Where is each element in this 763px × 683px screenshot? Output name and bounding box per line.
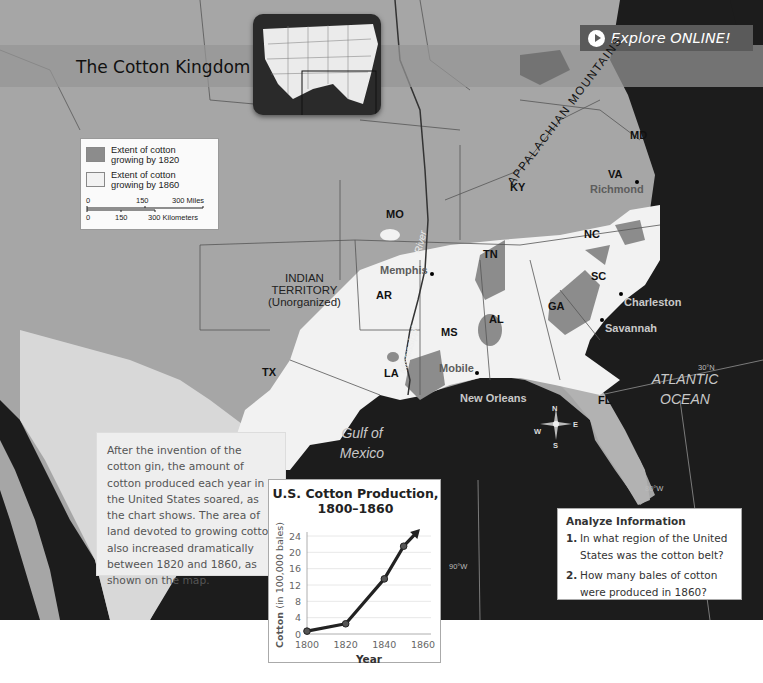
coord-90w: 90°W xyxy=(449,562,467,571)
legend-item-1860: Extent of cottongrowing by 1860 xyxy=(86,170,179,190)
svg-text:24: 24 xyxy=(289,531,301,542)
scale-miles-0: 0 xyxy=(86,196,90,205)
scale-km-0: 0 xyxy=(86,213,90,222)
compass-s: S xyxy=(553,441,558,450)
city-savannah: Savannah xyxy=(605,322,657,334)
svg-text:Cotton (in 100,000 bales): Cotton (in 100,000 bales) xyxy=(274,522,285,648)
city-dot-charleston xyxy=(619,292,623,296)
svg-text:16: 16 xyxy=(289,563,301,574)
label-nc: NC xyxy=(584,228,600,240)
city-dot-mobile xyxy=(475,371,479,375)
map-legend: Extent of cottongrowing by 1820 Extent o… xyxy=(80,138,219,230)
city-charleston: Charleston xyxy=(624,296,681,308)
label-la: LA xyxy=(384,367,399,379)
label-gulf-of-mexico: Gulf of Mexico xyxy=(327,423,397,463)
label-tn: TN xyxy=(483,248,498,260)
label-ga: GA xyxy=(548,300,565,312)
svg-text:4: 4 xyxy=(295,612,301,623)
label-indian-territory: INDIAN TERRITORY (Unorganized) xyxy=(268,272,341,308)
atlantic-line1: ATLANTIC xyxy=(640,369,730,389)
gulf-line2: Mexico xyxy=(327,443,397,463)
scale-km-150: 150 xyxy=(115,213,128,222)
atlantic-line2: OCEAN xyxy=(640,389,730,409)
question-1-text: In what region of the United States was … xyxy=(580,530,733,564)
compass-e: E xyxy=(573,420,578,429)
question-1-number: 1. xyxy=(566,530,580,564)
analyze-heading: Analyze Information xyxy=(566,515,733,527)
legend-swatch-1860 xyxy=(86,172,105,187)
map-title: The Cotton Kingdom xyxy=(76,57,250,77)
explore-online-label: Explore ONLINE! xyxy=(611,30,731,46)
city-mobile: Mobile xyxy=(439,362,474,374)
analyze-question-2: 2. How many bales of cotton were produce… xyxy=(566,567,733,601)
compass-n: N xyxy=(552,404,557,413)
label-atlantic-ocean: ATLANTIC OCEAN xyxy=(640,369,730,409)
question-2-number: 2. xyxy=(566,567,580,601)
svg-text:1800: 1800 xyxy=(295,639,319,650)
scale-miles-150: 150 xyxy=(136,196,149,205)
label-va: VA xyxy=(608,168,622,180)
legend-label-1820-line1: Extent of cotton xyxy=(111,145,179,155)
cotton-production-chart: U.S. Cotton Production, 1800–1860 048121… xyxy=(268,479,441,663)
gulf-line1: Gulf of xyxy=(327,423,397,443)
label-tx: TX xyxy=(262,366,276,378)
scale-miles-300: 300 Miles xyxy=(172,196,204,205)
label-md: MD xyxy=(630,129,647,141)
city-richmond: Richmond xyxy=(590,183,644,195)
label-mo: MO xyxy=(386,208,404,220)
city-dot-memphis xyxy=(430,272,434,276)
svg-text:0: 0 xyxy=(295,629,301,640)
legend-item-1820: Extent of cottongrowing by 1820 xyxy=(86,145,179,165)
label-sc: SC xyxy=(591,270,606,282)
indian-territory-line1: INDIAN xyxy=(268,272,341,284)
coord-80w: 80°W xyxy=(645,484,663,493)
svg-text:1840: 1840 xyxy=(372,639,396,650)
svg-text:8: 8 xyxy=(295,596,301,607)
label-ar: AR xyxy=(376,289,392,301)
indian-territory-line2: TERRITORY xyxy=(268,284,341,296)
city-memphis: Memphis xyxy=(380,264,428,276)
label-fl: FL xyxy=(598,394,611,406)
svg-text:Year: Year xyxy=(355,653,383,664)
chart-plot: 048121620241800182018401860YearCotton (i… xyxy=(269,480,442,664)
city-new-orleans: New Orleans xyxy=(460,392,527,404)
svg-text:20: 20 xyxy=(289,547,301,558)
city-dot-richmond xyxy=(635,180,639,184)
analyze-question-1: 1. In what region of the United States w… xyxy=(566,530,733,564)
legend-label-1860-line2: growing by 1860 xyxy=(111,180,179,190)
scale-bar: 0 150 300 Miles 0 150 300 Kilometers xyxy=(86,196,212,222)
play-circle-icon xyxy=(588,30,605,47)
map-caption: After the invention of the cotton gin, t… xyxy=(97,433,285,575)
svg-text:12: 12 xyxy=(289,580,301,591)
legend-label-1860-line1: Extent of cotton xyxy=(111,170,179,180)
svg-text:1860: 1860 xyxy=(411,639,435,650)
analyze-information-box: Analyze Information 1. In what region of… xyxy=(557,508,742,600)
scale-km-300: 300 Kilometers xyxy=(148,213,198,222)
legend-label-1820-line2: growing by 1820 xyxy=(111,155,179,165)
locator-inset-map xyxy=(253,14,381,115)
label-ms: MS xyxy=(441,326,458,338)
legend-swatch-1820 xyxy=(86,147,105,162)
question-2-text: How many bales of cotton were produced i… xyxy=(580,567,733,601)
compass-w: W xyxy=(534,427,541,436)
label-al: AL xyxy=(489,313,504,325)
city-dot-savannah xyxy=(600,318,604,322)
svg-text:1820: 1820 xyxy=(334,639,358,650)
coord-30n: 30°N xyxy=(698,363,715,372)
indian-territory-line3: (Unorganized) xyxy=(268,296,341,308)
